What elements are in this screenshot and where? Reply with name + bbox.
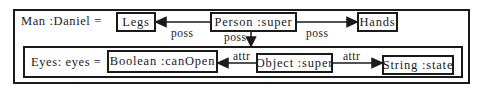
node-boolean-label: Boolean :canOpen [110,55,215,68]
node-person-label: Person :super [214,16,292,29]
edge-label-poss-eyes: poss [224,32,246,44]
node-object-super: Object :super [256,53,333,73]
node-boolean-canopen: Boolean :canOpen [107,50,218,73]
node-legs: Legs [116,12,156,32]
eyes-label: Eyes: eyes = [31,56,101,69]
edge-label-poss-legs: poss [171,28,193,40]
man-daniel-label: Man :Daniel = [21,15,102,28]
edge-label-attr-string: attr [343,51,360,63]
node-string-state: String :state [382,55,454,75]
node-person: Person :super [210,12,297,32]
node-hands: Hands [357,12,398,32]
edge-label-attr-boolean: attr [233,51,250,63]
node-string-label: String :state [383,59,453,72]
node-object-label: Object :super [256,57,333,70]
edge-label-poss-hands: poss [306,28,328,40]
node-legs-label: Legs [122,16,150,29]
node-hands-label: Hands [360,16,396,29]
